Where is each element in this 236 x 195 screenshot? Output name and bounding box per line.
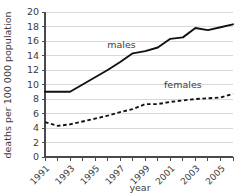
series-label-females: females	[164, 79, 202, 90]
gridlines	[45, 12, 233, 143]
chart-container: 02468101214161820 1991199319951997199920…	[0, 0, 236, 195]
y-axis-title: deaths per 100 000 population	[2, 11, 13, 158]
y-tick-label: 6	[33, 108, 39, 119]
y-tick-label: 2	[33, 137, 39, 148]
y-axis-ticks: 02468101214161820	[27, 6, 45, 162]
x-tick-label: 2001	[153, 163, 176, 186]
y-tick-label: 18	[27, 21, 39, 32]
x-tick-label: 2003	[179, 163, 202, 186]
x-tick-label: 1991	[28, 163, 51, 186]
y-tick-label: 10	[27, 79, 39, 90]
y-tick-label: 8	[33, 93, 39, 104]
y-tick-label: 14	[27, 50, 39, 61]
line-chart: 02468101214161820 1991199319951997199920…	[0, 0, 236, 195]
y-tick-label: 12	[27, 64, 39, 75]
x-tick-label: 1995	[78, 163, 101, 186]
y-tick-label: 16	[27, 35, 39, 46]
x-tick-label: 1993	[53, 163, 76, 186]
series-label-males: males	[107, 39, 136, 50]
x-axis-title: year	[129, 182, 150, 193]
series-line-males	[45, 24, 233, 91]
y-tick-label: 0	[33, 151, 39, 162]
y-tick-label: 20	[27, 6, 39, 17]
x-tick-label: 1997	[103, 163, 126, 186]
x-tick-label: 2005	[204, 163, 227, 186]
y-tick-label: 4	[33, 122, 39, 133]
